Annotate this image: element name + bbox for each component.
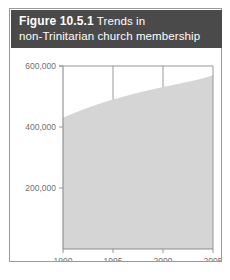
x-tick-label-2005: 2005 — [204, 256, 221, 261]
x-tick-label-2000: 2000 — [154, 256, 173, 261]
y-tick-label-600000: 600,000 — [25, 61, 56, 71]
area-series-layer — [63, 75, 213, 249]
chart-plot-area: 200,000400,000600,000 1990199520002005 — [10, 48, 221, 261]
y-tick-label-200000: 200,000 — [25, 183, 56, 193]
x-tick-label-1990: 1990 — [54, 256, 73, 261]
x-tick-layer: 1990199520002005 — [54, 249, 221, 261]
area-fill — [63, 75, 213, 249]
y-tick-label-400000: 400,000 — [25, 122, 56, 132]
figure-caption-line-1: Figure 10.5.1 Trends in — [19, 14, 222, 29]
figure-caption-text: Trends in — [97, 15, 145, 27]
y-tick-layer: 200,000400,000600,000 — [25, 61, 63, 193]
figure-number: Figure 10.5.1 — [19, 14, 94, 28]
area-chart: 200,000400,000600,000 1990199520002005 — [10, 48, 221, 261]
figure-header: Figure 10.5.1 Trends in non-Trinitarian … — [11, 10, 222, 48]
figure-caption-line-2: non-Trinitarian church membership — [19, 29, 222, 44]
figure-container: Figure 10.5.1 Trends in non-Trinitarian … — [9, 8, 222, 262]
x-tick-label-1995: 1995 — [104, 256, 123, 261]
